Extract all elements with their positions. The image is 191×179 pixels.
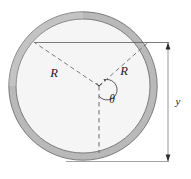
- radius-right-label: R: [119, 64, 128, 78]
- annulus-diagram: R R θ y: [0, 0, 191, 179]
- dimension-y-label: y: [175, 95, 181, 107]
- dimension-y-arrow-bottom: [166, 155, 171, 162]
- radius-left-label: R: [49, 66, 58, 80]
- angle-theta-label: θ: [109, 93, 115, 105]
- inner-circle: [16, 19, 150, 153]
- dimension-y-arrow-top: [166, 43, 171, 50]
- figure-container: R R θ y: [0, 0, 191, 179]
- dimension-y-group: [166, 43, 171, 162]
